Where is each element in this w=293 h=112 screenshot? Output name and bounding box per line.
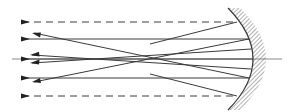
arrow-left-icon — [30, 60, 40, 65]
arrow-right-icon — [21, 94, 30, 99]
reflected-ray-near-axis-lower — [32, 55, 251, 69]
arrow-right-icon — [21, 76, 30, 81]
arrow-right-icon — [21, 57, 30, 62]
arrow-right-icon — [21, 20, 30, 25]
arrow-left-icon — [30, 52, 40, 57]
reflected-ray-marginal-bottom — [150, 74, 237, 96]
arrow-left-icon — [32, 78, 41, 83]
concave-mirror-ray-diagram — [0, 0, 293, 112]
mirror-hatching — [220, 0, 293, 112]
arrow-right-icon — [21, 37, 30, 42]
reflected-ray-marginal-top — [150, 22, 237, 44]
arrow-left-icon — [32, 33, 41, 38]
